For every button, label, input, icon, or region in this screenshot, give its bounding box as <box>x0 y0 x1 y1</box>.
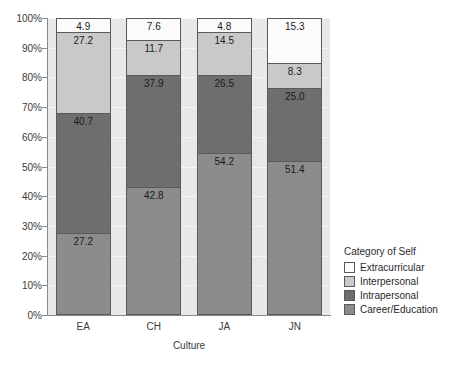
bar-segment[interactable]: 8.3 <box>268 64 321 88</box>
bar-segment-value-label: 25.0 <box>285 91 304 102</box>
x-axis-tick-label: JN <box>260 321 330 332</box>
bar-segment[interactable]: 15.3 <box>268 19 321 64</box>
bar-segment-value-label: 40.7 <box>74 116 93 127</box>
bar-segment[interactable]: 26.5 <box>198 76 251 154</box>
bar-segment[interactable]: 40.7 <box>57 114 110 234</box>
bar-segment-value-label: 37.9 <box>144 78 163 89</box>
legend-swatch <box>344 262 355 273</box>
bar-segment-value-label: 26.5 <box>215 78 234 89</box>
y-axis-tick-mark <box>42 77 47 78</box>
legend-item-label: Extracurricular <box>360 262 424 273</box>
bar-segment[interactable]: 42.8 <box>127 188 180 314</box>
stacked-bar[interactable]: 15.38.325.051.4 <box>267 18 322 315</box>
bar-segment-value-label: 15.3 <box>285 21 304 32</box>
y-axis-tick-label: 40% <box>0 191 42 202</box>
legend-item[interactable]: Intrapersonal <box>344 290 469 301</box>
legend-item[interactable]: Extracurricular <box>344 262 469 273</box>
y-axis-tick-label: 10% <box>0 280 42 291</box>
x-axis-tick-label: CH <box>119 321 189 332</box>
chart-legend: Category of Self ExtracurricularInterper… <box>344 246 469 318</box>
y-axis-tick-label: 90% <box>0 42 42 53</box>
bar-segment[interactable]: 54.2 <box>198 154 251 314</box>
legend-item[interactable]: Interpersonal <box>344 276 469 287</box>
bar-segment-value-label: 54.2 <box>215 156 234 167</box>
legend-swatch <box>344 290 355 301</box>
bar-segment-value-label: 7.6 <box>147 21 161 32</box>
y-axis-tick-mark <box>42 48 47 49</box>
legend-item-label: Interpersonal <box>360 276 418 287</box>
y-axis-tick-label: 0% <box>0 310 42 321</box>
bar-segment-value-label: 11.7 <box>144 43 163 54</box>
x-axis-line <box>47 315 331 316</box>
bar-segment-value-label: 8.3 <box>288 66 302 77</box>
y-axis-line <box>47 18 48 316</box>
bar-segment-value-label: 4.9 <box>76 21 90 32</box>
y-axis-tick-mark <box>42 285 47 286</box>
bar-segment[interactable]: 4.8 <box>198 19 251 33</box>
x-axis-tick-label: EA <box>48 321 118 332</box>
bar-segment-value-label: 4.8 <box>217 21 231 32</box>
bar-segment[interactable]: 4.9 <box>57 19 110 33</box>
chart-figure: 4.927.240.727.27.611.737.942.84.814.526.… <box>0 0 471 376</box>
legend-item[interactable]: Career/Education <box>344 304 469 315</box>
legend-title: Category of Self <box>344 246 469 257</box>
legend-item-label: Intrapersonal <box>360 290 418 301</box>
bar-segment-value-label: 27.2 <box>74 35 93 46</box>
y-axis-tick-label: 80% <box>0 72 42 83</box>
x-axis-title: Culture <box>48 340 330 351</box>
bar-segment[interactable]: 27.2 <box>57 33 110 113</box>
y-axis-tick-mark <box>42 256 47 257</box>
y-axis-tick-label: 50% <box>0 161 42 172</box>
bar-segment[interactable]: 14.5 <box>198 33 251 76</box>
y-axis-tick-mark <box>42 18 47 19</box>
bar-segment-value-label: 14.5 <box>215 35 234 46</box>
bar-segment[interactable]: 27.2 <box>57 234 110 314</box>
bar-segment[interactable]: 11.7 <box>127 41 180 76</box>
legend-swatch <box>344 276 355 287</box>
y-axis-tick-mark <box>42 315 47 316</box>
y-axis-tick-mark <box>42 107 47 108</box>
stacked-bar[interactable]: 7.611.737.942.8 <box>126 18 181 315</box>
y-axis-tick-label: 60% <box>0 131 42 142</box>
legend-items: ExtracurricularInterpersonalIntrapersona… <box>344 262 469 315</box>
y-axis-tick-label: 30% <box>0 220 42 231</box>
y-axis-tick-label: 100% <box>0 13 42 24</box>
bar-segment-value-label: 51.4 <box>285 164 304 175</box>
x-axis-tick-label: JA <box>189 321 259 332</box>
bar-segment-value-label: 42.8 <box>144 190 163 201</box>
plot-area: 4.927.240.727.27.611.737.942.84.814.526.… <box>48 18 330 315</box>
y-axis-tick-mark <box>42 137 47 138</box>
y-axis-tick-label: 70% <box>0 102 42 113</box>
y-axis-tick-label: 20% <box>0 250 42 261</box>
bar-segment[interactable]: 7.6 <box>127 19 180 41</box>
bar-segment[interactable]: 25.0 <box>268 89 321 163</box>
stacked-bar[interactable]: 4.927.240.727.2 <box>56 18 111 315</box>
legend-swatch <box>344 304 355 315</box>
bar-segment-value-label: 27.2 <box>74 236 93 247</box>
bar-segment[interactable]: 37.9 <box>127 76 180 188</box>
y-axis-tick-mark <box>42 196 47 197</box>
legend-item-label: Career/Education <box>360 304 438 315</box>
y-axis-tick-mark <box>42 226 47 227</box>
bar-segment[interactable]: 51.4 <box>268 162 321 314</box>
stacked-bar[interactable]: 4.814.526.554.2 <box>197 18 252 315</box>
y-axis-tick-mark <box>42 167 47 168</box>
